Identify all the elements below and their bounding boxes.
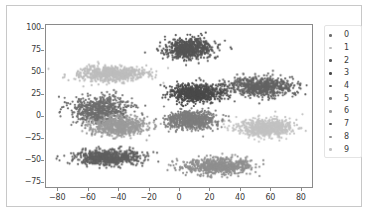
y-tick-mark xyxy=(41,72,44,73)
legend-item-8[interactable]: 8 xyxy=(325,131,361,144)
x-tick-mark xyxy=(209,188,210,191)
y-tick-label: 75 xyxy=(11,46,41,54)
y-tick-label: −25 xyxy=(11,134,41,142)
y-tick-mark xyxy=(41,182,44,183)
legend-item-label: 4 xyxy=(336,82,361,90)
y-tick-label: 50 xyxy=(11,68,41,76)
legend-marker-icon xyxy=(325,148,336,151)
y-tick-mark xyxy=(41,160,44,161)
x-tick-label: −20 xyxy=(132,194,166,202)
legend-marker-icon xyxy=(325,34,336,37)
x-tick-label: 40 xyxy=(223,194,257,202)
legend-item-label: 7 xyxy=(336,120,361,128)
legend-marker-icon xyxy=(325,72,336,75)
x-tick-mark xyxy=(118,188,119,191)
legend-item-5[interactable]: 5 xyxy=(325,92,361,105)
y-tick-mark xyxy=(41,116,44,117)
legend-marker-icon xyxy=(325,123,336,126)
x-tick-label: 0 xyxy=(162,194,196,202)
legend-item-label: 8 xyxy=(336,133,361,141)
x-tick-mark xyxy=(179,188,180,191)
x-tick-label: 20 xyxy=(192,194,226,202)
x-tick-mark xyxy=(149,188,150,191)
x-tick-mark xyxy=(88,188,89,191)
legend-item-label: 1 xyxy=(336,44,361,52)
legend-item-1[interactable]: 1 xyxy=(325,42,361,55)
legend-item-label: 9 xyxy=(336,146,361,154)
legend-marker-icon xyxy=(325,97,336,100)
figure-frame: −75−50−250255075100 −80−60−40−2002040608… xyxy=(6,5,362,207)
legend-item-7[interactable]: 7 xyxy=(325,118,361,131)
y-tick-mark xyxy=(41,50,44,51)
y-axis-ticks: −75−50−250255075100 xyxy=(7,24,41,188)
plot-axes-area xyxy=(45,24,313,188)
legend-marker-icon xyxy=(325,59,336,62)
legend-box[interactable]: 0123456789 xyxy=(324,25,362,158)
scatter-points-canvas xyxy=(46,25,312,187)
legend-item-2[interactable]: 2 xyxy=(325,54,361,67)
y-tick-mark xyxy=(41,138,44,139)
y-tick-label: 0 xyxy=(11,112,41,120)
y-tick-label: 100 xyxy=(11,24,41,32)
x-tick-label: −80 xyxy=(40,194,74,202)
legend-item-0[interactable]: 0 xyxy=(325,29,361,42)
x-tick-label: 80 xyxy=(284,194,318,202)
legend-item-label: 0 xyxy=(336,31,361,39)
legend-item-4[interactable]: 4 xyxy=(325,80,361,93)
x-axis-ticks: −80−60−40−20020406080 xyxy=(45,188,313,210)
y-tick-label: −75 xyxy=(11,178,41,186)
y-tick-mark xyxy=(41,28,44,29)
x-tick-mark xyxy=(57,188,58,191)
x-tick-mark xyxy=(270,188,271,191)
x-tick-label: −40 xyxy=(101,194,135,202)
legend-item-6[interactable]: 6 xyxy=(325,105,361,118)
legend-marker-icon xyxy=(325,85,336,88)
legend-item-label: 5 xyxy=(336,95,361,103)
legend-marker-icon xyxy=(325,110,336,113)
scatter-plot-screenshot: −75−50−250255075100 −80−60−40−2002040608… xyxy=(0,0,371,224)
y-tick-label: 25 xyxy=(11,90,41,98)
y-tick-label: −50 xyxy=(11,156,41,164)
x-tick-mark xyxy=(301,188,302,191)
y-tick-mark xyxy=(41,94,44,95)
legend-item-9[interactable]: 9 xyxy=(325,143,361,156)
legend-marker-icon xyxy=(325,136,336,139)
legend-item-label: 2 xyxy=(336,57,361,65)
x-tick-label: 60 xyxy=(253,194,287,202)
x-tick-mark xyxy=(240,188,241,191)
legend-item-label: 6 xyxy=(336,107,361,115)
legend-item-label: 3 xyxy=(336,69,361,77)
x-tick-label: −60 xyxy=(71,194,105,202)
legend-item-3[interactable]: 3 xyxy=(325,67,361,80)
legend-marker-icon xyxy=(325,47,336,50)
